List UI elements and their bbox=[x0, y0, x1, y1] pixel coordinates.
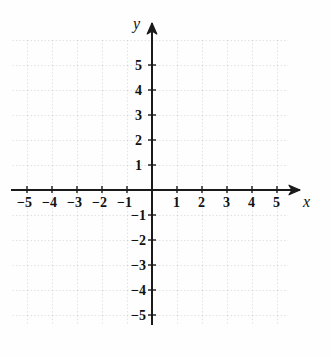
x-tick-label-2: 2 bbox=[198, 196, 205, 210]
x-tick-label--2: −2 bbox=[92, 196, 107, 210]
x-axis-name: x bbox=[303, 194, 310, 210]
coordinate-plane: −5 −4 −3 −2 −1 1 2 3 4 5 5 4 3 2 1 −1 −2… bbox=[0, 0, 331, 357]
y-tick-label--5: −5 bbox=[131, 309, 146, 323]
x-tick-label--1: −1 bbox=[117, 196, 132, 210]
y-tick-label-1: 1 bbox=[135, 159, 142, 173]
y-tick-label--2: −2 bbox=[131, 234, 146, 248]
x-tick-label-3: 3 bbox=[223, 196, 230, 210]
x-tick-label-1: 1 bbox=[173, 196, 180, 210]
x-tick-label--4: −4 bbox=[42, 196, 57, 210]
y-tick-label--3: −3 bbox=[131, 259, 146, 273]
grid-and-axes bbox=[0, 0, 331, 357]
x-tick-label--3: −3 bbox=[67, 196, 82, 210]
x-tick-label-5: 5 bbox=[273, 196, 280, 210]
gridlines bbox=[11, 40, 288, 325]
x-tick-label--5: −5 bbox=[17, 196, 32, 210]
x-tick-label-4: 4 bbox=[248, 196, 255, 210]
y-tick-label-3: 3 bbox=[135, 109, 142, 123]
y-tick-label-5: 5 bbox=[135, 59, 142, 73]
y-axis-name: y bbox=[133, 16, 140, 32]
y-tick-label--1: −1 bbox=[131, 209, 146, 223]
y-tick-label--4: −4 bbox=[131, 284, 146, 298]
y-tick-label-2: 2 bbox=[135, 134, 142, 148]
y-tick-label-4: 4 bbox=[135, 84, 142, 98]
